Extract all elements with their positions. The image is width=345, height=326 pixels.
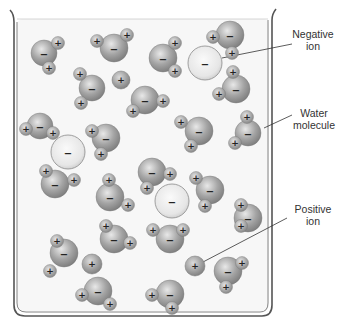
- positive-charge-icon: +: [77, 98, 85, 108]
- positive-ion: +: [185, 256, 205, 276]
- negative-charge-icon: −: [102, 134, 110, 145]
- positive-charge-icon: +: [97, 149, 105, 159]
- positive-charge-icon: +: [222, 282, 230, 292]
- negative-charge-icon: −: [88, 84, 96, 95]
- positive-charge-icon: +: [46, 266, 54, 276]
- label-water-molecule-line2: molecule: [283, 120, 345, 132]
- positive-charge-icon: +: [129, 106, 137, 116]
- positive-charge-icon: +: [171, 66, 179, 76]
- positive-charge-icon: +: [229, 67, 237, 77]
- negative-charge-icon: −: [195, 127, 203, 138]
- negative-charge-icon: −: [206, 186, 214, 197]
- label-positive-ion-line2: ion: [283, 216, 343, 228]
- positive-charge-icon: +: [88, 259, 96, 269]
- negative-charge-icon: −: [106, 193, 114, 204]
- positive-charge-icon: +: [209, 32, 217, 42]
- positive-charge-icon: +: [149, 225, 157, 235]
- negative-ion: −: [51, 135, 85, 169]
- positive-charge-icon: +: [168, 303, 176, 313]
- positive-charge-icon: +: [102, 221, 110, 231]
- positive-charge-icon: +: [143, 183, 151, 193]
- positive-charge-icon: +: [191, 261, 199, 271]
- negative-charge-icon: −: [64, 148, 72, 159]
- positive-charge-icon: +: [117, 75, 125, 85]
- positive-charge-icon: +: [231, 138, 239, 148]
- negative-charge-icon: −: [166, 235, 174, 246]
- negative-charge-icon: −: [51, 180, 59, 191]
- positive-charge-icon: +: [215, 89, 223, 99]
- positive-charge-icon: +: [22, 124, 30, 134]
- positive-charge-icon: +: [123, 30, 131, 40]
- positive-charge-icon: +: [93, 36, 101, 46]
- positive-charge-icon: +: [45, 63, 53, 73]
- label-water-molecule: Water molecule: [283, 108, 345, 131]
- negative-charge-icon: −: [201, 59, 209, 70]
- positive-charge-icon: +: [88, 126, 96, 136]
- negative-charge-icon: −: [94, 287, 102, 298]
- negative-charge-icon: −: [36, 122, 44, 133]
- label-water-molecule-line1: Water: [283, 108, 345, 120]
- negative-charge-icon: −: [244, 129, 252, 140]
- positive-ion: +: [82, 254, 102, 274]
- negative-ion: −: [188, 46, 222, 80]
- positive-charge-icon: +: [42, 166, 50, 176]
- negative-charge-icon: −: [168, 197, 176, 208]
- positive-charge-icon: +: [228, 48, 236, 58]
- positive-charge-icon: +: [166, 169, 174, 179]
- positive-charge-icon: +: [192, 173, 200, 183]
- positive-charge-icon: +: [78, 290, 86, 300]
- negative-charge-icon: −: [224, 267, 232, 278]
- negative-charge-icon: −: [148, 168, 156, 179]
- positive-charge-icon: +: [106, 299, 114, 309]
- positive-charge-icon: +: [237, 200, 245, 210]
- label-negative-ion-line1: Negative: [283, 29, 343, 41]
- positive-charge-icon: +: [126, 238, 134, 248]
- positive-charge-icon: +: [177, 117, 185, 127]
- label-negative-ion: Negative ion: [283, 29, 343, 52]
- negative-charge-icon: −: [244, 214, 252, 225]
- negative-charge-icon: −: [141, 96, 149, 107]
- positive-charge-icon: +: [49, 128, 57, 138]
- positive-charge-icon: +: [171, 38, 179, 48]
- positive-charge-icon: +: [159, 96, 167, 106]
- positive-charge-icon: +: [124, 200, 132, 210]
- negative-charge-icon: −: [40, 49, 48, 60]
- positive-charge-icon: +: [179, 225, 187, 235]
- positive-charge-icon: +: [238, 258, 246, 268]
- positive-ion: +: [112, 71, 130, 89]
- negative-charge-icon: −: [60, 249, 68, 260]
- negative-charge-icon: −: [232, 85, 240, 96]
- positive-charge-icon: +: [148, 290, 156, 300]
- positive-charge-icon: +: [187, 141, 195, 151]
- negative-ion: −: [155, 184, 189, 218]
- negative-charge-icon: −: [159, 54, 167, 65]
- label-positive-ion-line1: Positive: [283, 204, 343, 216]
- positive-charge-icon: +: [243, 112, 251, 122]
- negative-charge-icon: −: [166, 290, 174, 301]
- positive-charge-icon: +: [105, 175, 113, 185]
- negative-charge-icon: −: [110, 44, 118, 55]
- positive-charge-icon: +: [54, 38, 62, 48]
- positive-charge-icon: +: [70, 175, 78, 185]
- beaker-diagram: ++−++−++−++−++−++−++−++−++−++−++−++−++−+…: [0, 0, 345, 326]
- positive-charge-icon: +: [76, 69, 84, 79]
- label-negative-ion-line2: ion: [283, 41, 343, 53]
- positive-charge-icon: +: [53, 236, 61, 246]
- label-positive-ion: Positive ion: [283, 204, 343, 227]
- negative-charge-icon: −: [110, 235, 118, 246]
- positive-charge-icon: +: [201, 201, 209, 211]
- negative-charge-icon: −: [226, 31, 234, 42]
